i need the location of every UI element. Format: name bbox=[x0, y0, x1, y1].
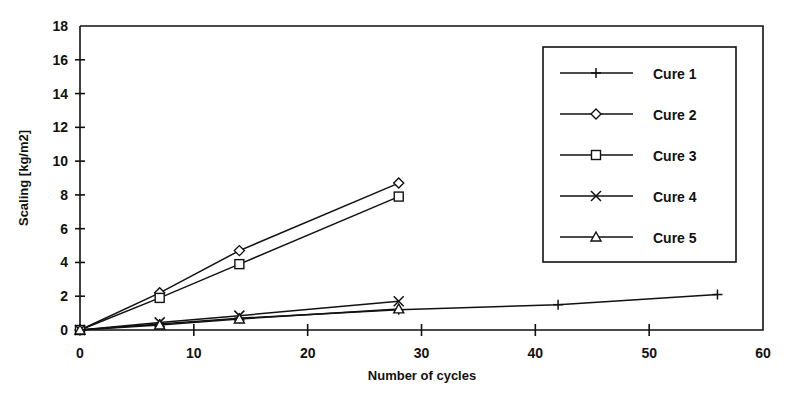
y-axis-title: Scaling [kg/m2] bbox=[16, 130, 31, 226]
x-axis-title: Number of cycles bbox=[368, 368, 476, 383]
square-marker bbox=[592, 151, 601, 160]
y-tick-label: 14 bbox=[52, 86, 68, 102]
y-tick-label: 2 bbox=[60, 288, 68, 304]
square-marker bbox=[155, 293, 164, 302]
y-tick-label: 4 bbox=[60, 254, 68, 270]
legend-item-label: Cure 4 bbox=[653, 189, 697, 205]
y-tick-label: 0 bbox=[60, 322, 68, 338]
legend-item-label: Cure 2 bbox=[653, 107, 697, 123]
diamond-marker bbox=[394, 178, 404, 188]
y-tick-label: 16 bbox=[52, 52, 68, 68]
y-tick-label: 6 bbox=[60, 221, 68, 237]
square-marker bbox=[235, 260, 244, 269]
diamond-marker bbox=[234, 246, 244, 256]
legend-item-label: Cure 3 bbox=[653, 148, 697, 164]
x-tick-label: 60 bbox=[755, 345, 771, 361]
chart-canvas: 0246810121416180102030405060Number of cy… bbox=[0, 0, 787, 401]
y-tick-label: 8 bbox=[60, 187, 68, 203]
x-tick-label: 0 bbox=[76, 345, 84, 361]
legend-item-label: Cure 1 bbox=[653, 66, 697, 82]
scaling-vs-cycles-chart: 0246810121416180102030405060Number of cy… bbox=[0, 0, 787, 401]
x-tick-label: 10 bbox=[186, 345, 202, 361]
square-marker bbox=[394, 192, 403, 201]
x-tick-label: 30 bbox=[414, 345, 430, 361]
y-tick-label: 12 bbox=[52, 119, 68, 135]
legend-item-label: Cure 5 bbox=[653, 230, 697, 246]
x-tick-label: 40 bbox=[528, 345, 544, 361]
x-tick-label: 20 bbox=[300, 345, 316, 361]
legend: Cure 1Cure 2Cure 3Cure 4Cure 5 bbox=[543, 47, 736, 262]
y-tick-label: 10 bbox=[52, 153, 68, 169]
x-tick-label: 50 bbox=[641, 345, 657, 361]
y-tick-label: 18 bbox=[52, 18, 68, 34]
